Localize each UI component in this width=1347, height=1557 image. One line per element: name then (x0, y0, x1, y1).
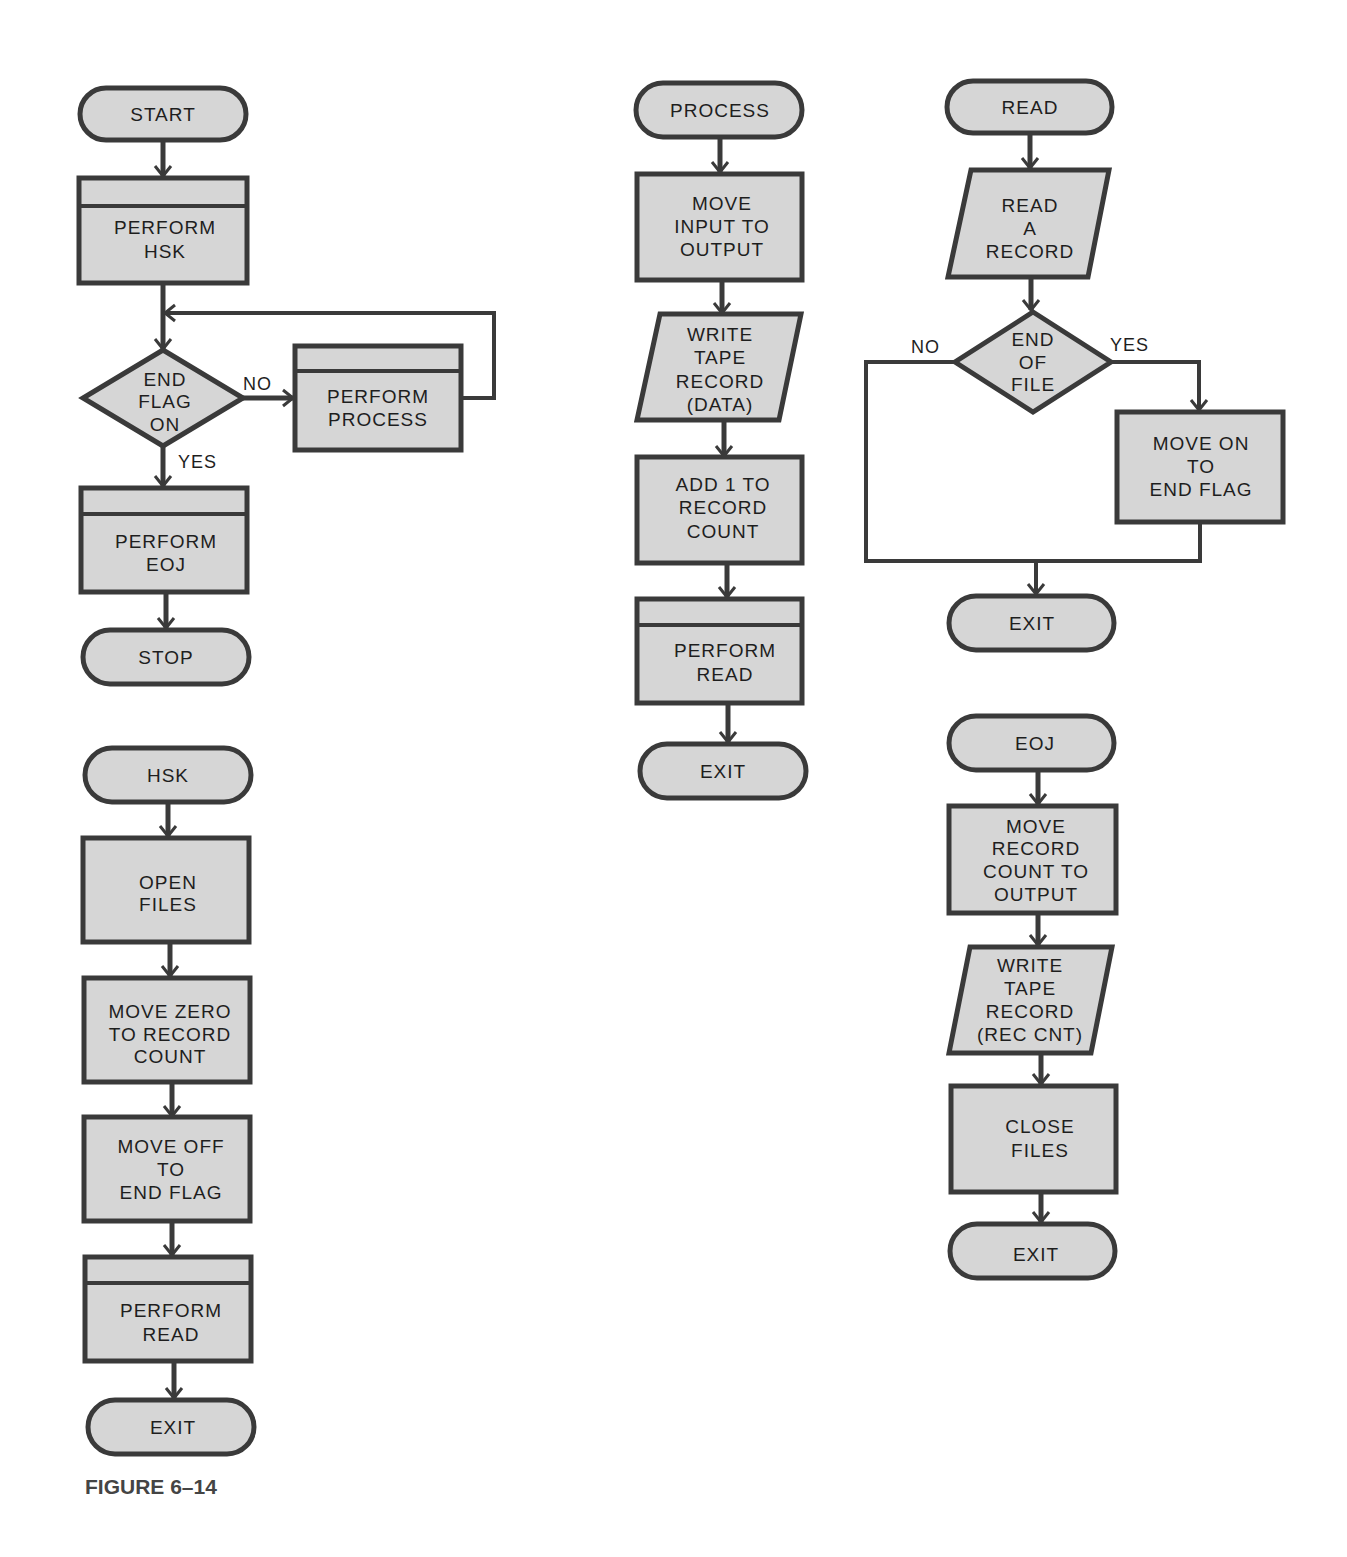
svg-text:FILES: FILES (1011, 1140, 1069, 1161)
svg-text:END: END (143, 369, 186, 390)
svg-text:FILE: FILE (1011, 374, 1055, 395)
svg-text:A: A (1023, 218, 1037, 239)
svg-text:WRITE: WRITE (687, 324, 753, 345)
svg-text:(REC CNT): (REC CNT) (977, 1024, 1083, 1045)
svg-text:READ: READ (1002, 195, 1059, 216)
eoj-flow: EOJ MOVE RECORD COUNT TO OUTPUT WRITE TA… (949, 716, 1116, 1278)
svg-text:EXIT: EXIT (150, 1417, 196, 1438)
svg-text:END FLAG: END FLAG (1149, 479, 1252, 500)
flowchart-canvas: START PERFORM HSK END FLAG ON NO PERFORM… (0, 0, 1347, 1557)
main-flow: START PERFORM HSK END FLAG ON NO PERFORM… (79, 88, 494, 684)
svg-text:MOVE: MOVE (692, 193, 752, 214)
svg-text:TO RECORD: TO RECORD (109, 1024, 232, 1045)
svg-text:PERFORM: PERFORM (120, 1300, 222, 1321)
no-label: NO (243, 374, 272, 394)
svg-text:MOVE: MOVE (1006, 816, 1066, 837)
svg-text:RECORD: RECORD (986, 1001, 1074, 1022)
svg-text:HSK: HSK (144, 241, 186, 262)
svg-text:MOVE ZERO: MOVE ZERO (108, 1001, 231, 1022)
yes-label: YES (178, 452, 217, 472)
svg-text:FLAG: FLAG (138, 391, 192, 412)
svg-text:TAPE: TAPE (694, 347, 746, 368)
svg-text:EXIT: EXIT (700, 761, 746, 782)
svg-text:READ: READ (697, 664, 754, 685)
svg-text:READ: READ (1002, 97, 1059, 118)
svg-text:COUNT: COUNT (134, 1046, 207, 1067)
svg-text:PERFORM: PERFORM (674, 640, 776, 661)
svg-text:PERFORM: PERFORM (115, 531, 217, 552)
yes-label: YES (1110, 335, 1149, 355)
svg-text:HSK: HSK (147, 765, 189, 786)
svg-text:WRITE: WRITE (997, 955, 1063, 976)
svg-text:FILES: FILES (139, 894, 197, 915)
svg-text:PROCESS: PROCESS (328, 409, 428, 430)
read-flow: READ READ A RECORD END OF FILE NO YES MO… (866, 81, 1283, 650)
svg-text:RECORD: RECORD (679, 497, 767, 518)
svg-text:MOVE ON: MOVE ON (1153, 433, 1250, 454)
svg-text:TO: TO (157, 1159, 185, 1180)
hsk-flow: HSK OPEN FILES MOVE ZERO TO RECORD COUNT… (83, 748, 254, 1454)
svg-text:ADD 1 TO: ADD 1 TO (676, 474, 771, 495)
svg-text:STOP: STOP (138, 647, 193, 668)
svg-text:EXIT: EXIT (1013, 1244, 1059, 1265)
svg-text:CLOSE: CLOSE (1005, 1116, 1074, 1137)
process-flow: PROCESS MOVE INPUT TO OUTPUT WRITE TAPE … (636, 83, 806, 798)
svg-text:INPUT TO: INPUT TO (674, 216, 770, 237)
svg-text:EOJ: EOJ (146, 554, 186, 575)
svg-text:RECORD: RECORD (992, 838, 1080, 859)
svg-text:OPEN: OPEN (139, 872, 197, 893)
process-close-files (951, 1086, 1116, 1192)
svg-text:COUNT TO: COUNT TO (983, 861, 1089, 882)
svg-text:COUNT: COUNT (687, 521, 760, 542)
svg-text:PERFORM: PERFORM (327, 386, 429, 407)
figure-caption: FIGURE 6–14 (85, 1475, 217, 1499)
start-label: START (130, 104, 196, 125)
svg-text:PROCESS: PROCESS (670, 100, 770, 121)
svg-text:EOJ: EOJ (1015, 733, 1055, 754)
svg-text:TAPE: TAPE (1004, 978, 1056, 999)
svg-text:RECORD: RECORD (986, 241, 1074, 262)
svg-text:RECORD: RECORD (676, 371, 764, 392)
svg-text:OUTPUT: OUTPUT (994, 884, 1078, 905)
svg-text:EXIT: EXIT (1009, 613, 1055, 634)
svg-text:OF: OF (1019, 352, 1047, 373)
svg-text:PERFORM: PERFORM (114, 217, 216, 238)
svg-text:TO: TO (1187, 456, 1215, 477)
svg-text:END: END (1011, 329, 1054, 350)
svg-text:END FLAG: END FLAG (119, 1182, 222, 1203)
no-label: NO (911, 337, 940, 357)
svg-text:READ: READ (143, 1324, 200, 1345)
svg-text:(DATA): (DATA) (687, 394, 754, 415)
svg-text:OUTPUT: OUTPUT (680, 239, 764, 260)
svg-text:ON: ON (150, 414, 181, 435)
svg-text:MOVE OFF: MOVE OFF (117, 1136, 224, 1157)
